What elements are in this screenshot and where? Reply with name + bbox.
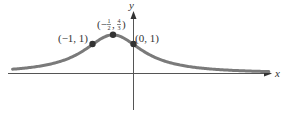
label-0-1: (0, 1) <box>135 32 159 45</box>
label-max-den1: 2 <box>108 25 111 31</box>
label-max-num2: 4 <box>118 18 121 24</box>
label-max: (− 1 2 , 4 3 ) <box>97 18 126 31</box>
label-max-den2: 3 <box>118 25 121 31</box>
label-max-num1: 1 <box>108 18 111 24</box>
point-neg1-1 <box>89 41 95 47</box>
point-max <box>110 32 116 38</box>
y-axis-arrow-icon <box>131 11 137 19</box>
label-max-close: ) <box>122 18 126 31</box>
x-axis-label: x <box>274 67 280 79</box>
label-neg1-1: (−1, 1) <box>58 32 88 45</box>
y-axis-label: y <box>128 0 134 11</box>
chart-canvas: x y (−1, 1) (0, 1) (− 1 2 , 4 3 ) <box>0 0 284 118</box>
label-max-sep: , <box>112 18 115 30</box>
label-max-open: (− <box>97 18 107 31</box>
